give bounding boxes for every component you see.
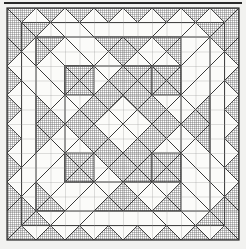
quilt-block-svg (0, 0, 246, 249)
quilt-block-figure (0, 0, 246, 249)
top-rule (4, 2, 242, 4)
block-grid-overlay (7, 8, 239, 240)
